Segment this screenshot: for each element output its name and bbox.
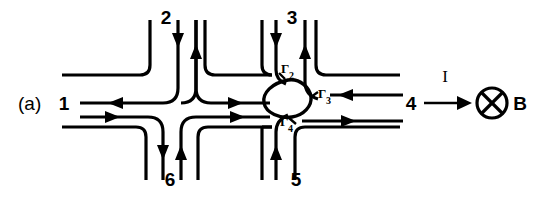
wall-upper-right-inner: [262, 20, 272, 75]
edge-state-diagram: (a) 1 2 3 4 5 6 Γ 2 Γ 3 Γ 4 I B: [0, 0, 539, 200]
terminal-label-1: 1: [59, 93, 70, 114]
antidot-loop: [264, 80, 311, 118]
gamma-2-sub: 2: [289, 70, 294, 81]
figure-root: (a) 1 2 3 4 5 6 Γ 2 Γ 3 Γ 4 I B: [0, 0, 539, 200]
flowline-upper-mid-to-center: [196, 20, 270, 103]
arrowhead-out-of-terminal-3: [299, 44, 311, 59]
flowline-upper-left: [80, 20, 178, 103]
gamma-3-sub: 3: [326, 95, 331, 106]
gamma-label-3: Γ 3: [318, 86, 331, 106]
arrowhead-out-toward-terminal-4: [341, 115, 356, 127]
arrowhead-toward-terminal-1-upper: [108, 97, 123, 109]
wall-upper-left-outer: [62, 20, 150, 75]
field-indicator: I B: [424, 67, 527, 118]
terminal-label-6: 6: [165, 169, 176, 190]
arrowhead-into-terminal-2: [172, 33, 184, 48]
arrowhead-toward-center-from-terminal-4: [338, 89, 353, 101]
flowline-upper-mid-left: [181, 20, 196, 103]
arrowhead-out-of-terminal-6: [175, 145, 187, 160]
terminal-label-3: 3: [287, 7, 298, 28]
gamma-4-sub: 4: [288, 123, 293, 134]
wall-lower-left-outer: [62, 127, 146, 180]
panel-label: (a): [18, 93, 41, 114]
wall-lower-right-outer: [295, 127, 400, 180]
wall-upper-right-outer: [316, 20, 400, 75]
field-label: B: [513, 93, 527, 114]
terminal-label-2: 2: [161, 7, 172, 28]
arrowhead-out-of-terminal-5: [270, 145, 282, 160]
arrowhead-center-upper-left: [228, 97, 243, 109]
arrowhead-center-lower-left: [230, 111, 245, 123]
arrowhead-into-antidot-region: [270, 33, 282, 48]
terminal-label-5: 5: [291, 169, 302, 190]
terminal-label-4: 4: [406, 93, 417, 114]
arrowhead-from-terminal-1-lower: [105, 111, 120, 123]
current-arrowhead: [457, 96, 472, 110]
arrowhead-into-terminal-6: [157, 145, 169, 160]
current-label: I: [442, 67, 448, 86]
